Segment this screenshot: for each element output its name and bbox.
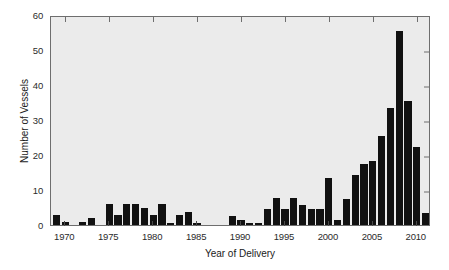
bar-2010	[413, 147, 420, 225]
bar-1981	[158, 204, 165, 225]
x-tick-label-2005: 2005	[362, 232, 382, 242]
x-tick-mark-top-2010	[417, 17, 418, 22]
bar-1984	[185, 212, 192, 225]
y-tick-label-60: 60	[33, 11, 43, 21]
bar-1969	[53, 215, 60, 226]
bar-1991	[246, 223, 253, 225]
x-tick-mark-2000	[328, 221, 329, 226]
bar-1989	[229, 216, 236, 225]
bar-2001	[334, 220, 341, 225]
bar-1982	[167, 223, 174, 225]
x-tick-mark-1970	[64, 221, 65, 226]
bar-2006	[378, 136, 385, 225]
x-tick-label-1990: 1990	[230, 232, 250, 242]
x-tick-mark-top-2000	[329, 17, 330, 22]
bar-2000	[325, 178, 332, 225]
x-tick-label-2010: 2010	[406, 232, 426, 242]
x-tick-mark-top-1980	[153, 17, 154, 22]
bar-2004	[360, 164, 367, 225]
figure-container: 0102030405060 Number of Vessels 19701975…	[0, 0, 449, 270]
y-tick-mark-right-20	[424, 157, 429, 158]
bar-1977	[123, 204, 130, 225]
bar-1993	[264, 209, 271, 225]
y-tick-label-20: 20	[33, 151, 43, 161]
x-tick-label-1995: 1995	[274, 232, 294, 242]
bar-1985	[193, 223, 200, 225]
bar-1983	[176, 215, 183, 226]
y-tick-label-40: 40	[33, 81, 43, 91]
y-tick-label-30: 30	[33, 116, 43, 126]
bar-2003	[352, 175, 359, 225]
y-tick-label-50: 50	[33, 46, 43, 56]
bar-1972	[79, 222, 86, 226]
x-tick-mark-1985	[196, 221, 197, 226]
y-tick-label-0: 0	[38, 221, 43, 231]
bar-2007	[387, 108, 394, 225]
y-tick-mark-right-30	[424, 122, 429, 123]
x-tick-label-1975: 1975	[98, 232, 118, 242]
x-tick-mark-top-1990	[241, 17, 242, 22]
bar-1976	[114, 215, 121, 226]
bar-2002	[343, 199, 350, 225]
bar-2009	[404, 101, 411, 225]
bar-1994	[273, 198, 280, 225]
x-tick-mark-1995	[284, 221, 285, 226]
x-tick-mark-top-2005	[373, 17, 374, 22]
bar-1973	[88, 218, 95, 225]
x-tick-label-1980: 1980	[142, 232, 162, 242]
x-tick-mark-1975	[108, 221, 109, 226]
x-tick-mark-top-1970	[65, 17, 66, 22]
y-tick-mark-right-40	[424, 87, 429, 88]
y-tick-mark-right-10	[424, 192, 429, 193]
bar-1997	[299, 205, 306, 225]
x-tick-label-1985: 1985	[186, 232, 206, 242]
bar-1978	[132, 204, 139, 225]
y-axis-title: Number of Vessels	[19, 41, 30, 201]
bar-2011	[422, 213, 429, 225]
x-axis-title: Year of Delivery	[50, 248, 430, 259]
x-tick-mark-2010	[416, 221, 417, 226]
bar-1999	[316, 209, 323, 225]
bar-series	[51, 17, 429, 225]
y-tick-label-10: 10	[33, 186, 43, 196]
x-tick-mark-top-1975	[109, 17, 110, 22]
bar-2008	[396, 31, 403, 225]
x-tick-label-2000: 2000	[318, 232, 338, 242]
x-tick-mark-1990	[240, 221, 241, 226]
bar-1992	[255, 223, 262, 225]
x-tick-mark-top-1985	[197, 17, 198, 22]
bar-1979	[141, 208, 148, 226]
x-tick-mark-2005	[372, 221, 373, 226]
x-tick-mark-top-1995	[285, 17, 286, 22]
bar-1996	[290, 198, 297, 225]
plot-area	[50, 16, 430, 226]
bar-1998	[308, 209, 315, 225]
y-axis-title-container: Number of Vessels	[6, 16, 24, 226]
x-tick-label-1970: 1970	[54, 232, 74, 242]
bar-2005	[369, 161, 376, 225]
x-tick-mark-1980	[152, 221, 153, 226]
y-tick-mark-right-50	[424, 52, 429, 53]
